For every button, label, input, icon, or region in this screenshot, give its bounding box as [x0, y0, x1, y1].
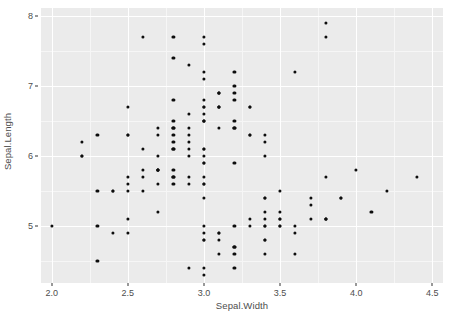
gridline-minor-vertical	[242, 8, 243, 283]
data-point	[263, 133, 266, 136]
data-point	[172, 147, 175, 150]
data-point	[111, 190, 114, 193]
data-point	[202, 112, 205, 115]
gridline-minor-vertical	[166, 8, 167, 283]
data-point	[233, 246, 236, 249]
y-axis-tick-mark	[35, 226, 38, 227]
y-axis-tick-label: 7	[28, 81, 33, 91]
data-point	[218, 91, 221, 94]
data-point	[294, 232, 297, 235]
data-point	[126, 190, 129, 193]
x-axis-tick-mark	[432, 283, 433, 286]
data-point	[187, 140, 190, 143]
data-point	[218, 232, 221, 235]
data-point	[355, 168, 358, 171]
data-point	[141, 190, 144, 193]
data-point	[157, 211, 160, 214]
data-point	[385, 190, 388, 193]
data-point	[233, 225, 236, 228]
gridline-major-horizontal	[41, 226, 443, 227]
data-point	[187, 63, 190, 66]
data-point	[157, 126, 160, 129]
data-point	[157, 133, 160, 136]
data-point	[202, 98, 205, 101]
data-point	[96, 260, 99, 263]
data-point	[248, 105, 251, 108]
data-point	[50, 225, 53, 228]
gridline-major-vertical	[52, 8, 53, 283]
gridline-minor-horizontal	[41, 261, 443, 262]
gridline-minor-horizontal	[41, 51, 443, 52]
data-point	[324, 21, 327, 24]
data-point	[202, 175, 205, 178]
data-point	[202, 35, 205, 38]
data-point	[233, 84, 236, 87]
data-point	[324, 218, 327, 221]
data-point	[172, 98, 175, 101]
data-point	[218, 253, 221, 256]
data-point	[309, 197, 312, 200]
data-point	[172, 168, 175, 171]
data-point	[324, 35, 327, 38]
data-point	[202, 267, 205, 270]
data-point	[233, 126, 236, 129]
data-point	[278, 225, 281, 228]
data-point	[233, 267, 236, 270]
data-point	[278, 211, 281, 214]
data-point	[202, 70, 205, 73]
gridline-major-vertical	[204, 8, 205, 283]
x-axis-tick-labels: 2.02.53.03.54.04.5	[41, 283, 443, 299]
data-point	[126, 105, 129, 108]
gridline-major-horizontal	[41, 16, 443, 17]
x-axis-tick-mark	[127, 283, 128, 286]
data-point	[187, 147, 190, 150]
data-point	[111, 232, 114, 235]
data-point	[187, 267, 190, 270]
data-point	[294, 253, 297, 256]
data-point	[339, 197, 342, 200]
data-point	[218, 239, 221, 242]
y-axis-tick-mark	[35, 156, 38, 157]
data-point	[187, 133, 190, 136]
x-axis-tick-mark	[280, 283, 281, 286]
data-point	[81, 140, 84, 143]
data-point	[218, 126, 221, 129]
data-point	[96, 225, 99, 228]
data-point	[187, 154, 190, 157]
x-axis-title: Sepal.Width	[41, 300, 443, 314]
data-point	[248, 218, 251, 221]
data-point	[141, 35, 144, 38]
gridline-major-horizontal	[41, 86, 443, 87]
gridline-minor-vertical	[90, 8, 91, 283]
x-axis-tick-mark	[203, 283, 204, 286]
data-point	[126, 175, 129, 178]
y-axis-tick-label: 8	[28, 11, 33, 21]
data-point	[324, 175, 327, 178]
data-point	[263, 225, 266, 228]
data-point	[96, 190, 99, 193]
data-point	[187, 112, 190, 115]
data-point	[263, 197, 266, 200]
data-point	[172, 140, 175, 143]
data-point	[233, 91, 236, 94]
data-point	[126, 182, 129, 185]
x-axis-tick-label: 2.5	[122, 288, 135, 298]
data-point	[202, 197, 205, 200]
data-point	[263, 253, 266, 256]
data-point	[202, 77, 205, 80]
data-point	[202, 225, 205, 228]
data-point	[172, 126, 175, 129]
data-point	[141, 175, 144, 178]
y-axis-title-text: Sepal.Length	[3, 113, 14, 170]
data-point	[416, 175, 419, 178]
data-point	[263, 154, 266, 157]
gridline-minor-horizontal	[41, 191, 443, 192]
plot-panel	[41, 8, 443, 283]
gridline-minor-horizontal	[41, 121, 443, 122]
data-point	[233, 161, 236, 164]
data-point	[81, 154, 84, 157]
data-point	[126, 232, 129, 235]
x-axis-tick-label: 4.5	[426, 288, 439, 298]
gridline-major-vertical	[280, 8, 281, 283]
x-axis-tick-label: 3.5	[274, 288, 287, 298]
